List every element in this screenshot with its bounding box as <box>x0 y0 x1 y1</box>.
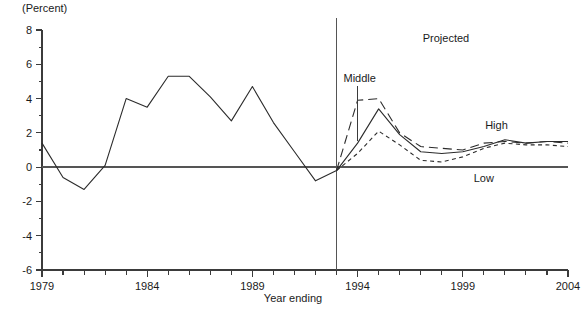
annotation-middle: Middle <box>344 72 376 84</box>
series-line-historical <box>42 76 337 189</box>
y-tick-label: 6 <box>26 58 32 70</box>
x-tick-label: 1979 <box>30 280 54 292</box>
y-tick-label: 8 <box>26 24 32 36</box>
x-tick-label: 1984 <box>135 280 159 292</box>
x-axis-title: Year ending <box>0 292 586 304</box>
line-chart-plot: 86420-2-4-6197919841989199419992004 Proj… <box>0 0 586 313</box>
y-tick-label: -4 <box>22 230 32 242</box>
x-tick-label: 1999 <box>451 280 475 292</box>
series-line-low <box>337 131 568 170</box>
axis-tick-labels: 86420-2-4-6197919841989199419992004 <box>22 24 580 292</box>
x-tick-label: 1994 <box>345 280 369 292</box>
annotation-projected: Projected <box>423 32 469 44</box>
y-axis-unit-label: (Percent) <box>22 2 67 14</box>
annotation-low: Low <box>474 172 494 184</box>
y-tick-label: 0 <box>26 161 32 173</box>
y-tick-label: -2 <box>22 195 32 207</box>
chart-container: (Percent) 86420-2-4-61979198419891994199… <box>0 0 586 313</box>
y-tick-label: 2 <box>26 127 32 139</box>
y-tick-label: 4 <box>26 93 32 105</box>
x-tick-label: 1989 <box>240 280 264 292</box>
annotation-high: High <box>485 119 508 131</box>
x-tick-label: 2004 <box>556 280 580 292</box>
y-tick-label: -6 <box>22 264 32 276</box>
